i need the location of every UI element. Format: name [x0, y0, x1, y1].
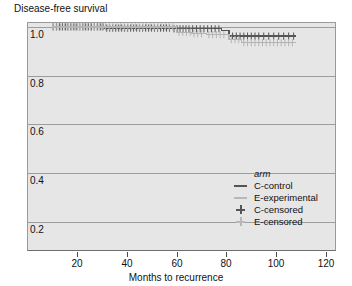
series-e-experimental [52, 23, 296, 46]
line-marker-icon [234, 180, 249, 191]
x-tick-label-40: 40 [121, 258, 132, 269]
kaplan-meier-figure: Disease-free survival 1.00.80.60.40.2 20… [0, 0, 352, 286]
x-tick-mark-40 [127, 252, 128, 257]
legend-label: E-censored [254, 216, 303, 227]
series-c-control [52, 23, 296, 39]
legend-item-c-censored: C-censored [224, 204, 330, 215]
legend-label: C-censored [254, 204, 303, 215]
x-tick-mark-120 [326, 252, 327, 257]
x-tick-label-80: 80 [220, 258, 231, 269]
x-axis-title: Months to recurrence [0, 272, 352, 283]
legend-item-c-control: C-control [224, 180, 330, 191]
x-tick-label-120: 120 [318, 258, 335, 269]
chart-legend: arm C-controlE-experimentalC-censoredE-c… [224, 168, 330, 230]
survival-curves [0, 0, 352, 286]
legend-label: E-experimental [254, 192, 318, 203]
x-tick-label-100: 100 [268, 258, 285, 269]
legend-item-e-experimental: E-experimental [224, 192, 330, 203]
plus-marker-icon [234, 204, 249, 215]
line-marker-icon [234, 192, 249, 203]
x-tick-mark-100 [276, 252, 277, 257]
legend-label: C-control [254, 180, 293, 191]
legend-item-e-censored: E-censored [224, 216, 330, 227]
x-tick-mark-60 [177, 252, 178, 257]
x-tick-mark-80 [226, 252, 227, 257]
x-tick-label-20: 20 [71, 258, 82, 269]
x-tick-label-60: 60 [171, 258, 182, 269]
x-tick-mark-20 [77, 252, 78, 257]
legend-title: arm [254, 168, 270, 179]
plus-marker-icon [234, 216, 249, 227]
